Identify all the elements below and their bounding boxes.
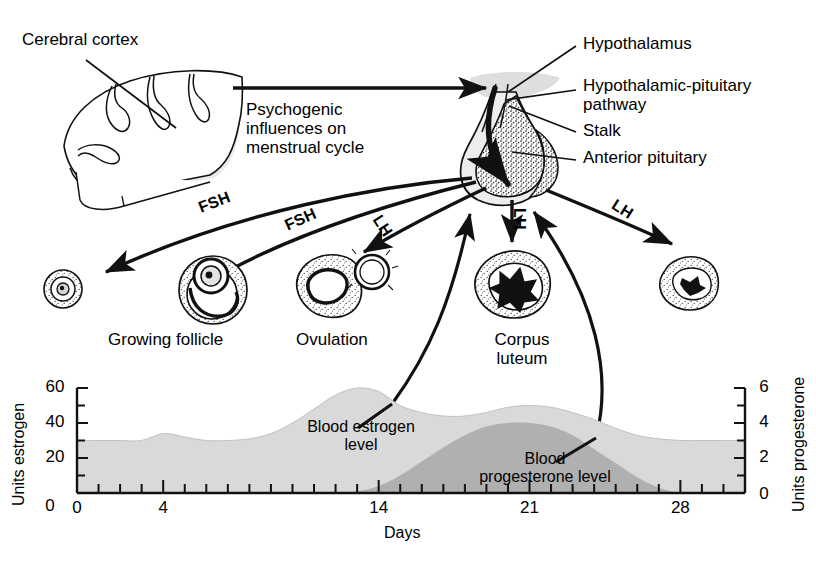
primordial-follicle-illustration <box>44 270 82 308</box>
x-tick-label: 4 <box>148 498 178 517</box>
arrow-lh-to-corpus-albicans <box>546 190 672 244</box>
arrow-progesterone-feedback <box>534 212 602 438</box>
growing-follicle-illustration <box>179 256 247 324</box>
y-axis-left-title: Units estrogen <box>10 403 28 506</box>
x-tick-label: 14 <box>364 498 394 517</box>
x-axis-title: Days <box>384 524 420 542</box>
corpus-albicans-illustration <box>660 257 719 310</box>
pituitary-illustration <box>461 72 560 205</box>
psychogenic-line-2: influences on <box>246 119 364 138</box>
annotation-blood-estrogen-level: Blood estrogen level <box>286 418 436 454</box>
y-axis-right-title: Units progesterone <box>790 377 808 512</box>
x-tick-label: 0 <box>62 498 92 517</box>
arrow-estrogen-feedback <box>392 214 470 404</box>
psychogenic-line-3: menstrual cycle <box>246 138 364 157</box>
label-psychogenic-influences: Psychogenic influences on menstrual cycl… <box>246 100 364 157</box>
y-tick-label: 0 <box>38 496 62 515</box>
estrogen-callout-line-2: level <box>286 436 436 454</box>
y-tick-label: 20 <box>38 447 72 466</box>
y-tick-label: 60 <box>38 377 72 396</box>
label-anterior-pituitary: Anterior pituitary <box>583 148 707 167</box>
y2-tick-label: 4 <box>754 412 774 431</box>
figure-canvas: Cerebral cortex Psychogenic influences o… <box>0 0 816 572</box>
label-hypothalamic-pituitary-pathway: Hypothalamic-pituitary pathway <box>583 76 751 114</box>
label-cerebral-cortex: Cerebral cortex <box>22 30 138 49</box>
y-tick-label: 40 <box>38 412 72 431</box>
psychogenic-line-1: Psychogenic <box>246 100 364 119</box>
x-tick-label: 28 <box>665 498 695 517</box>
x-tick-label: 21 <box>515 498 545 517</box>
progesterone-callout-line-1: Blood <box>440 450 650 468</box>
y2-tick-label: 6 <box>754 377 774 396</box>
corpus-luteum-line-1: Corpus <box>482 330 562 349</box>
pathway-line-1: Hypothalamic-pituitary <box>583 76 751 95</box>
corpus-luteum-illustration <box>475 251 550 318</box>
annotation-blood-progesterone-level: Blood progesterone level <box>440 450 650 486</box>
label-lh-to-corpus-luteum: LH <box>510 208 528 230</box>
estrogen-callout-line-1: Blood estrogen <box>286 418 436 436</box>
progesterone-callout-line-2: progesterone level <box>440 468 650 486</box>
label-corpus-luteum: Corpus luteum <box>482 330 562 368</box>
cerebral-cortex-illustration <box>64 71 242 210</box>
label-hypothalamus: Hypothalamus <box>583 34 692 53</box>
label-ovulation: Ovulation <box>296 330 368 349</box>
pathway-line-2: pathway <box>583 95 751 114</box>
y2-tick-label: 2 <box>754 447 774 466</box>
ovulation-illustration <box>297 244 398 317</box>
corpus-luteum-line-2: luteum <box>482 349 562 368</box>
label-stalk: Stalk <box>583 121 621 140</box>
label-growing-follicle: Growing follicle <box>108 330 223 349</box>
y2-tick-label: 0 <box>754 484 774 503</box>
